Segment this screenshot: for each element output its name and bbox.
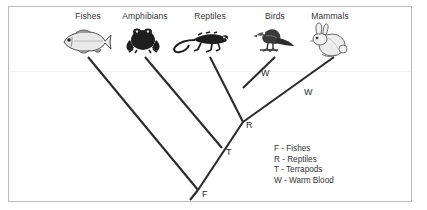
frog-icon <box>124 26 162 54</box>
warm-blood-mark-mammals: W <box>304 87 313 97</box>
warm-blood-mark-birds: W <box>261 68 270 78</box>
node-label-R: R <box>246 120 253 130</box>
branch-fishes <box>88 57 198 190</box>
legend-entry-r: R - Reptiles <box>274 155 334 166</box>
branch-f-to-t <box>198 122 243 190</box>
node-label-T: T <box>226 147 232 157</box>
legend-entry-t: T - Terrapods <box>274 165 334 176</box>
cladogram-figure: Fishes Amphibians Reptiles Birds Mammals… <box>0 0 427 210</box>
node-label-F: F <box>202 189 208 199</box>
taxon-label-reptiles: Reptiles <box>194 11 226 21</box>
rabbit-icon <box>308 22 350 58</box>
legend-entry-f: F - Fishes <box>274 144 334 155</box>
legend-entry-w: W - Warm Blood <box>274 176 334 187</box>
taxon-label-fishes: Fishes <box>75 11 101 21</box>
bird-icon <box>252 24 296 56</box>
taxon-label-mammals: Mammals <box>311 11 349 21</box>
root-stub <box>190 190 198 200</box>
legend: F - Fishes R - Reptiles T - Terrapods W … <box>274 144 334 186</box>
taxon-label-birds: Birds <box>265 11 285 21</box>
taxon-label-amphibians: Amphibians <box>122 11 167 21</box>
fish-icon <box>58 28 112 54</box>
branch-mammals <box>243 57 334 122</box>
branch-amphibians <box>145 57 222 148</box>
branch-reptiles <box>210 57 243 122</box>
lizard-icon <box>168 28 230 54</box>
branch-birds <box>243 57 275 88</box>
